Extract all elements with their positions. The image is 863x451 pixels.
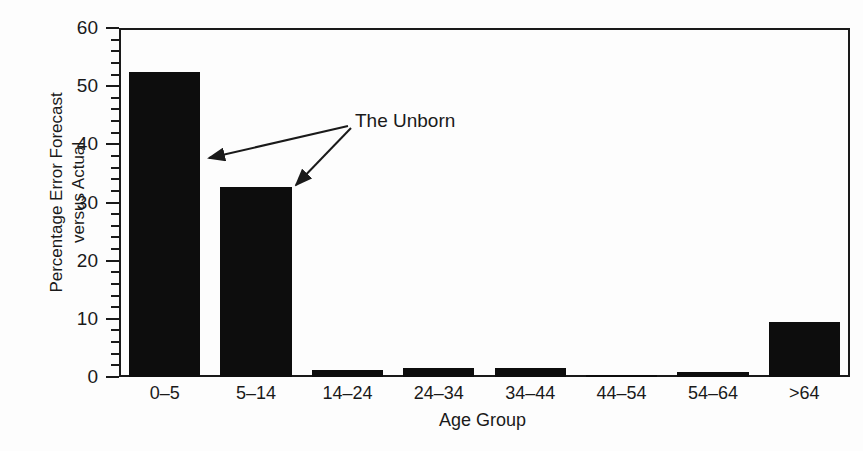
x-axis-tick-label: 14–24 [302,384,393,402]
bar [403,368,474,377]
bar [769,322,840,377]
x-axis-title: Age Group [0,410,863,431]
bars-layer [0,0,863,377]
annotation-label-the-unborn: The Unborn [355,110,455,132]
bar [220,187,291,377]
bar [586,375,657,377]
chart-figure: Percentage Error Forecast versus Actual … [0,0,863,451]
x-axis-tick-label: >64 [759,384,850,402]
x-axis-tick-label: 0–5 [119,384,210,402]
x-axis-tick-label: 24–34 [393,384,484,402]
bar [495,368,566,377]
x-axis-tick-label: 34–44 [485,384,576,402]
bar [312,370,383,377]
bar [677,372,748,377]
x-axis-tick-label: 44–54 [576,384,667,402]
bar [129,72,200,377]
x-axis-tick-label: 54–64 [667,384,758,402]
x-axis-tick-label: 5–14 [210,384,301,402]
